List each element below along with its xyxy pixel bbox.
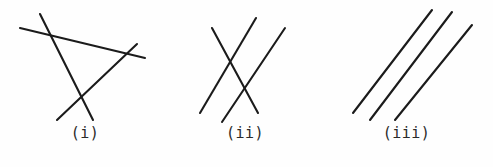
figure-panel-ii: (ii) bbox=[170, 0, 320, 167]
figure-label-iii: (iii) bbox=[320, 124, 493, 142]
figure-label-i: (i) bbox=[0, 124, 170, 142]
figure-label-ii: (ii) bbox=[170, 124, 320, 142]
figure-panel-iii: (iii) bbox=[320, 0, 493, 167]
figure-panel-i: (i) bbox=[0, 0, 170, 167]
figure-canvas: (i) (ii) (iii) bbox=[0, 0, 493, 167]
